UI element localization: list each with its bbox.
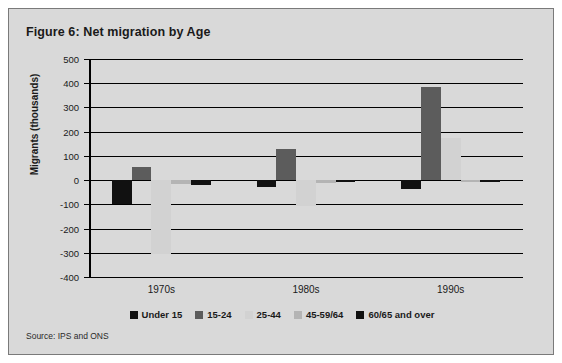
bar-1990s-60-65-and-over (480, 180, 500, 182)
chart-legend: Under 1515-2425-4445-59/6460/65 and over (9, 309, 555, 320)
gridline (89, 277, 523, 278)
y-axis-tick-label: -200 (45, 223, 79, 234)
legend-swatch-25-44 (245, 311, 253, 319)
y-axis-tick (84, 204, 89, 205)
y-axis-tick (84, 180, 89, 181)
bar-1990s-15-24 (421, 87, 441, 180)
legend-label-under-15: Under 15 (142, 309, 183, 320)
legend-swatch-60-65-and-over (356, 311, 364, 319)
bar-1980s-15-24 (276, 149, 296, 180)
y-axis-tick-label: 200 (45, 126, 79, 137)
bar-1970s-45-59-64 (171, 180, 191, 184)
gridline (89, 59, 523, 60)
y-axis-tick-label: 300 (45, 102, 79, 113)
bar-1970s-15-24 (132, 167, 152, 180)
y-axis-tick-label: 500 (45, 54, 79, 65)
y-axis-tick-label: 0 (45, 175, 79, 186)
figure-panel: Figure 6: Net migration by Age 500400300… (8, 8, 554, 355)
y-axis-tick (84, 83, 89, 84)
bar-1990s-25-44 (441, 138, 461, 180)
legend-swatch-45-59-64 (294, 311, 302, 319)
legend-label-25-44: 25-44 (257, 309, 281, 320)
gridline (89, 132, 523, 133)
y-axis-tick (84, 253, 89, 254)
legend-swatch-under-15 (130, 311, 138, 319)
y-axis-tick (84, 229, 89, 230)
y-axis-line (89, 59, 91, 278)
bar-1970s-under-15 (112, 180, 132, 204)
bar-1990s-45-59-64 (461, 180, 481, 182)
chart-plot-area (89, 59, 523, 277)
legend-swatch-15-24 (195, 311, 203, 319)
legend-item-15-24[interactable]: 15-24 (195, 309, 231, 320)
y-axis-title: Migrants (thousands) (29, 40, 40, 210)
legend-item-under-15[interactable]: Under 15 (130, 309, 183, 320)
bar-1980s-60-65-and-over (336, 180, 356, 182)
y-axis-tick (84, 156, 89, 157)
bar-1980s-under-15 (257, 180, 277, 187)
legend-item-25-44[interactable]: 25-44 (245, 309, 281, 320)
y-axis-tick-label: -400 (45, 272, 79, 283)
y-axis-tick-label: 400 (45, 78, 79, 89)
bar-1980s-45-59-64 (316, 180, 336, 183)
x-axis-tick-label-1970s: 1970s (148, 284, 175, 295)
y-axis-tick-label: -300 (45, 247, 79, 258)
y-axis-tick-label: -100 (45, 199, 79, 210)
bar-1970s-25-44 (151, 180, 171, 254)
x-axis-tick-label-1980s: 1980s (292, 284, 319, 295)
gridline (89, 107, 523, 108)
legend-label-45-59-64: 45-59/64 (306, 309, 344, 320)
bar-1980s-25-44 (296, 180, 316, 205)
legend-label-60-65-and-over: 60/65 and over (368, 309, 434, 320)
bar-1970s-60-65-and-over (191, 180, 211, 185)
y-axis-tick (84, 59, 89, 60)
y-axis-tick (84, 132, 89, 133)
x-axis-tick-label-1990s: 1990s (437, 284, 464, 295)
y-axis-tick (84, 277, 89, 278)
legend-item-60-65-and-over[interactable]: 60/65 and over (356, 309, 434, 320)
legend-item-45-59-64[interactable]: 45-59/64 (294, 309, 344, 320)
source-note: Source: IPS and ONS (26, 331, 109, 341)
y-axis-tick (84, 107, 89, 108)
y-axis-tick-label: 100 (45, 150, 79, 161)
legend-label-15-24: 15-24 (207, 309, 231, 320)
bar-1990s-under-15 (401, 180, 421, 189)
gridline (89, 83, 523, 84)
